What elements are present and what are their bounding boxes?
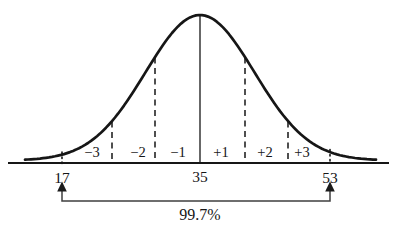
sd-label-plus-3: +3	[294, 144, 309, 160]
sd-label-minus-1: −1	[170, 144, 185, 160]
sd-label-plus-2: +2	[257, 144, 272, 160]
sd-label-plus-1: +1	[213, 144, 228, 160]
range-percentage-label: 99.7%	[179, 206, 220, 223]
sd-label-minus-3: −3	[84, 144, 99, 160]
range-bracket	[62, 187, 330, 201]
figure-canvas: −3 −2 −1 +1 +2 +3 17 35 53 99.7%	[0, 0, 397, 232]
axis-value-mean: 35	[192, 168, 208, 185]
sd-label-minus-2: −2	[130, 144, 145, 160]
normal-curve-diagram: −3 −2 −1 +1 +2 +3 17 35 53 99.7%	[0, 0, 397, 232]
